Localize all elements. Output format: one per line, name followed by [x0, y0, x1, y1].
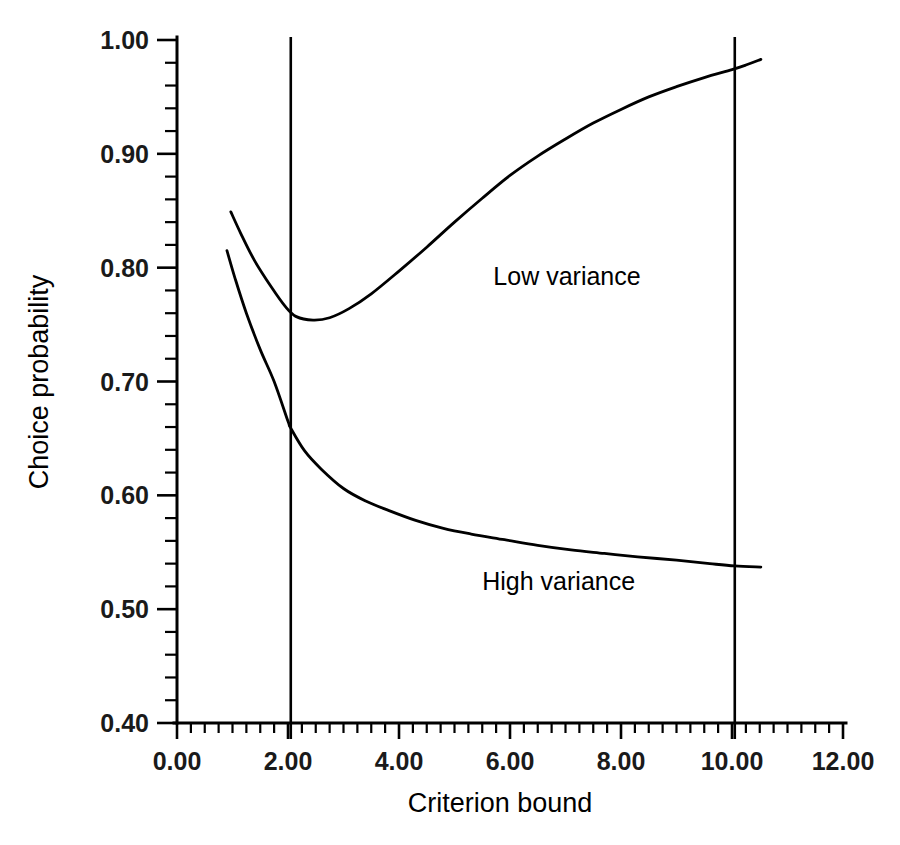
x-axis-tick-labels: 0.002.004.006.008.0010.0012.00 — [153, 747, 875, 775]
high-variance-label: High variance — [482, 567, 635, 595]
y-tick-label: 0.80 — [100, 254, 149, 282]
y-tick-label: 1.00 — [100, 26, 149, 54]
low-variance-label: Low variance — [493, 262, 640, 290]
y-tick-label: 0.70 — [100, 368, 149, 396]
x-tick-label: 4.00 — [375, 747, 424, 775]
y-tick-label: 0.50 — [100, 595, 149, 623]
x-tick-label: 12.00 — [812, 747, 875, 775]
series-annotations: Low varianceHigh variance — [482, 262, 640, 595]
x-axis-title: Criterion bound — [408, 788, 593, 818]
y-axis-ticks — [157, 40, 177, 723]
x-tick-label: 8.00 — [597, 747, 646, 775]
x-tick-label: 10.00 — [701, 747, 764, 775]
choice-probability-chart: 0.002.004.006.008.0010.0012.00 0.400.500… — [0, 0, 900, 845]
x-axis-ticks — [177, 723, 843, 739]
chart-figure: 0.002.004.006.008.0010.0012.00 0.400.500… — [0, 0, 900, 845]
series-high-variance — [227, 251, 761, 567]
data-series-group — [227, 59, 761, 567]
y-tick-label: 0.40 — [100, 709, 149, 737]
x-tick-label: 2.00 — [264, 747, 313, 775]
y-axis-tick-labels: 0.400.500.600.700.800.901.00 — [100, 26, 149, 737]
x-tick-label: 0.00 — [153, 747, 202, 775]
y-tick-label: 0.60 — [100, 481, 149, 509]
x-tick-label: 6.00 — [486, 747, 535, 775]
reference-lines-group — [291, 37, 735, 739]
y-tick-label: 0.90 — [100, 140, 149, 168]
y-axis-title: Choice probability — [24, 274, 54, 489]
